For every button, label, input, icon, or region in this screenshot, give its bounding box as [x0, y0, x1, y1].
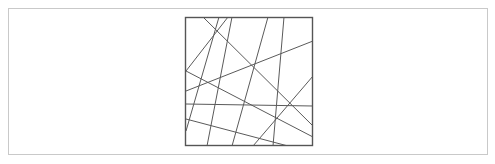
figure-background [0, 0, 495, 164]
figure-container: Random chords crossing a square [0, 0, 495, 164]
random-lines-figure [0, 0, 495, 164]
